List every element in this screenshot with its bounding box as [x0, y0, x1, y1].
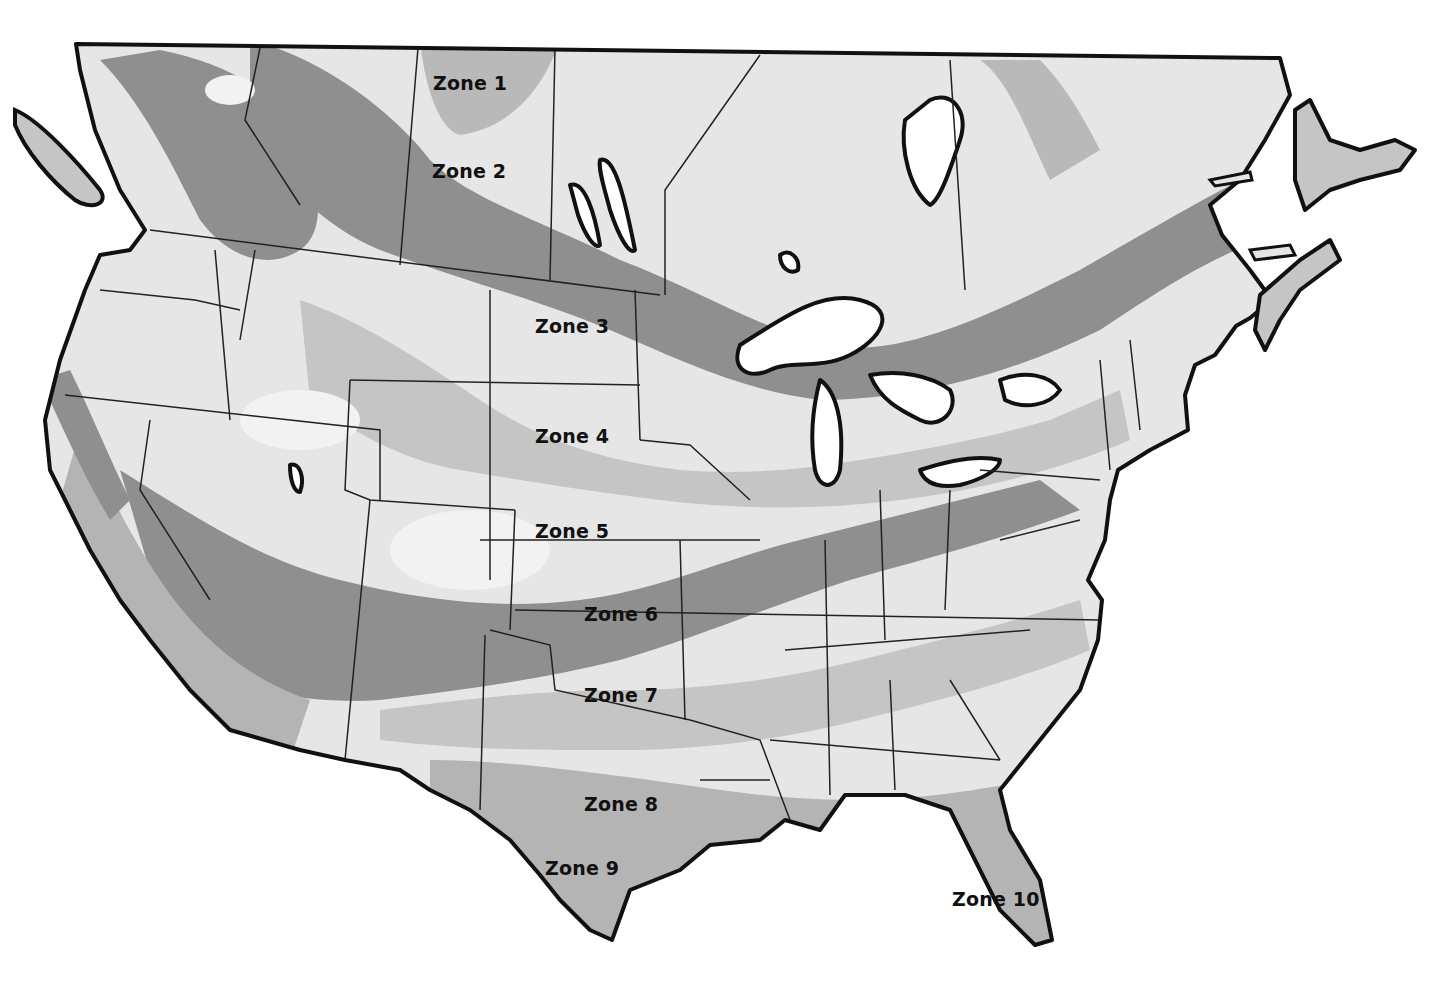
zone-label-5: Zone 5 — [535, 520, 609, 542]
newfoundland — [1295, 100, 1415, 210]
zone-label-3: Zone 3 — [535, 315, 609, 337]
zone-label-7: Zone 7 — [584, 684, 658, 706]
hardiness-zone-map — [0, 0, 1453, 997]
vancouver-island — [15, 110, 103, 205]
zone-label-9: Zone 9 — [545, 857, 619, 879]
zone-label-4: Zone 4 — [535, 425, 609, 447]
zone-label-10: Zone 10 — [952, 888, 1040, 910]
zone-label-8: Zone 8 — [584, 793, 658, 815]
zone-fill-layer — [0, 0, 1453, 997]
zone-label-6: Zone 6 — [584, 603, 658, 625]
zone-label-1: Zone 1 — [433, 72, 507, 94]
zone-label-2: Zone 2 — [432, 160, 506, 182]
prince-edward-island — [1250, 245, 1295, 260]
